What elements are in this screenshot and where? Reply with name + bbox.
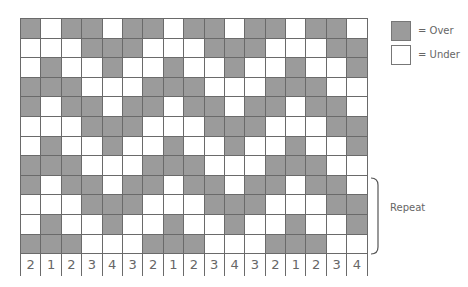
cell-under: [347, 78, 367, 98]
cell-under: [184, 195, 204, 215]
cell-over: [62, 78, 82, 98]
column-number: 1: [286, 254, 306, 276]
cell-under: [205, 235, 225, 255]
cell-over: [327, 19, 347, 39]
cell-over: [82, 117, 102, 137]
cell-over: [225, 195, 245, 215]
cell-under: [164, 117, 184, 137]
cell-under: [205, 137, 225, 157]
cell-under: [41, 97, 61, 117]
cell-under: [205, 78, 225, 98]
cell-under: [225, 19, 245, 39]
cell-under: [266, 195, 286, 215]
cell-under: [286, 39, 306, 59]
cell-under: [184, 39, 204, 59]
cell-under: [123, 215, 143, 235]
cell-under: [225, 78, 245, 98]
cell-over: [266, 176, 286, 196]
cell-over: [21, 176, 41, 196]
cell-over: [306, 19, 326, 39]
cell-under: [143, 117, 163, 137]
cell-under: [82, 235, 102, 255]
column-number: 3: [205, 254, 225, 276]
cell-over: [205, 195, 225, 215]
cell-over: [225, 58, 245, 78]
cell-under: [245, 156, 265, 176]
cell-over: [21, 78, 41, 98]
cell-over: [245, 117, 265, 137]
cell-over: [225, 117, 245, 137]
cell-over: [103, 39, 123, 59]
cell-under: [306, 117, 326, 137]
cell-under: [143, 58, 163, 78]
cell-over: [286, 137, 306, 157]
cell-over: [184, 176, 204, 196]
cell-under: [164, 195, 184, 215]
cell-over: [82, 195, 102, 215]
cell-under: [184, 58, 204, 78]
cell-over: [286, 78, 306, 98]
cell-over: [347, 39, 367, 59]
column-number: 2: [266, 254, 286, 276]
cell-under: [225, 97, 245, 117]
column-number: 3: [82, 254, 102, 276]
cell-over: [41, 137, 61, 157]
cell-under: [347, 19, 367, 39]
cell-under: [306, 39, 326, 59]
cell-under: [327, 215, 347, 235]
column-number: 2: [184, 254, 204, 276]
cell-under: [41, 176, 61, 196]
cell-under: [123, 137, 143, 157]
cell-over: [123, 117, 143, 137]
cell-over: [327, 97, 347, 117]
cell-over: [306, 235, 326, 255]
cell-under: [286, 195, 306, 215]
cell-under: [164, 19, 184, 39]
cell-over: [286, 156, 306, 176]
cell-over: [62, 176, 82, 196]
cell-under: [82, 78, 102, 98]
cell-over: [184, 78, 204, 98]
cell-over: [123, 97, 143, 117]
cell-under: [225, 176, 245, 196]
cell-over: [123, 195, 143, 215]
cell-over: [164, 78, 184, 98]
cell-over: [347, 117, 367, 137]
cell-under: [266, 39, 286, 59]
cell-under: [123, 156, 143, 176]
cell-under: [103, 235, 123, 255]
cell-under: [143, 137, 163, 157]
cell-under: [143, 215, 163, 235]
cell-over: [143, 19, 163, 39]
cell-under: [62, 195, 82, 215]
cell-over: [164, 58, 184, 78]
cell-over: [41, 235, 61, 255]
repeat-bracket-icon: [370, 177, 380, 255]
cell-under: [245, 137, 265, 157]
cell-under: [21, 195, 41, 215]
cell-under: [164, 39, 184, 59]
cell-under: [306, 137, 326, 157]
cell-under: [82, 58, 102, 78]
cell-under: [327, 137, 347, 157]
cell-over: [41, 58, 61, 78]
cell-over: [327, 176, 347, 196]
cell-over: [225, 39, 245, 59]
cell-over: [103, 137, 123, 157]
cell-over: [266, 19, 286, 39]
cell-over: [164, 137, 184, 157]
cell-over: [225, 215, 245, 235]
cell-over: [184, 235, 204, 255]
cell-over: [205, 176, 225, 196]
cell-over: [62, 97, 82, 117]
column-number: 4: [103, 254, 123, 276]
cell-over: [184, 97, 204, 117]
cell-over: [306, 176, 326, 196]
cell-under: [266, 58, 286, 78]
cell-over: [327, 195, 347, 215]
cell-under: [164, 97, 184, 117]
cell-over: [143, 78, 163, 98]
cell-under: [205, 215, 225, 235]
cell-under: [143, 39, 163, 59]
cell-under: [103, 97, 123, 117]
